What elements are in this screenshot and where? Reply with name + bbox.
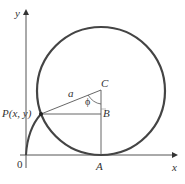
x-axis-label: x [172, 162, 177, 173]
point-b-label: B [103, 108, 110, 119]
angle-label: ϕ [85, 97, 90, 107]
diagram-graphics [0, 0, 185, 184]
origin-label: 0 [17, 159, 23, 170]
point-p-label: P(x, y) [2, 108, 31, 119]
radius-label: a [68, 88, 74, 99]
y-axis-label: y [15, 8, 20, 19]
point-p-dot [39, 112, 43, 116]
cycloid-curve [26, 114, 41, 155]
cycloid-diagram: y x 0 P(x, y) A B C a ϕ [0, 0, 185, 184]
point-a-label: A [96, 161, 103, 172]
point-c-label: C [101, 78, 108, 89]
